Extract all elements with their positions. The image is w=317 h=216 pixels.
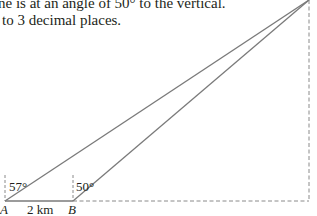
- line-of-sight-a: [5, 0, 309, 201]
- point-a-label: A: [0, 202, 8, 216]
- angle-b-label: 50°: [76, 179, 94, 194]
- angle-a-label: 57°: [9, 179, 27, 194]
- distance-ab-label: 2 km: [27, 202, 53, 216]
- point-b-label: B: [68, 202, 76, 216]
- line-of-sight-b: [73, 0, 309, 201]
- triangle-diagram: 57° 50° A 2 km B: [0, 0, 317, 216]
